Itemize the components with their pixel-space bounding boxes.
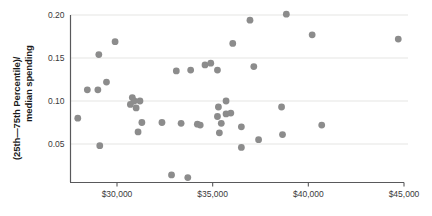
x-tick-label: $45,000 [389,189,420,199]
x-tick-label: $40,000 [293,189,324,199]
scatter-plot-figure: 0.050.100.150.20 $30,000$35,000$40,000$4… [0,0,432,216]
data-point [207,60,214,67]
data-point [184,174,191,181]
chart-canvas: 0.050.100.150.20 $30,000$35,000$40,000$4… [0,0,432,216]
data-point [283,11,290,18]
x-tick-label: $35,000 [197,189,228,199]
data-point [112,38,119,45]
data-point [197,122,204,129]
data-point [255,136,262,143]
data-point [238,144,245,151]
data-point [223,98,230,105]
data-point [223,111,230,118]
y-tick-label: 0.10 [48,96,65,106]
data-point [133,104,140,111]
data-point [103,79,110,86]
y-tick-label: 0.20 [48,10,65,20]
data-point [74,115,81,122]
data-point [250,63,257,70]
x-ticks-group [117,183,404,187]
data-point [247,17,254,24]
x-tick-labels-group: $30,000$35,000$40,000$45,000 [102,189,420,199]
data-points-group [74,11,401,181]
data-point [218,120,225,127]
data-point [215,104,222,111]
data-point [138,119,145,126]
data-point [135,129,142,136]
data-point [309,31,316,38]
data-point [159,119,166,126]
data-point [278,104,285,111]
data-point [178,120,185,127]
data-point [96,142,103,149]
data-point [395,36,402,43]
data-point [84,86,91,93]
data-point [187,67,194,74]
x-tick-label: $30,000 [102,189,133,199]
y-axis-title-line1: (25th—75th Percentile)/ [11,56,22,160]
y-tick-label: 0.05 [48,139,65,149]
data-point [229,40,236,47]
y-axis-title-line2: median spending [23,45,34,122]
y-tick-label: 0.15 [48,53,65,63]
data-point [202,61,209,68]
axes-group [70,15,404,183]
data-point [127,101,134,108]
data-point [168,172,175,179]
data-point [279,131,286,138]
data-point [95,51,102,58]
y-tick-labels-group: 0.050.100.150.20 [48,10,65,149]
data-point [214,67,221,74]
data-point [137,98,144,105]
data-point [94,86,101,93]
data-point [214,113,221,120]
y-axis-title: (25th—75th Percentile)/ median spending [11,45,34,160]
data-point [318,122,325,129]
data-point [238,123,245,130]
data-point [216,129,223,136]
data-point [173,68,180,75]
